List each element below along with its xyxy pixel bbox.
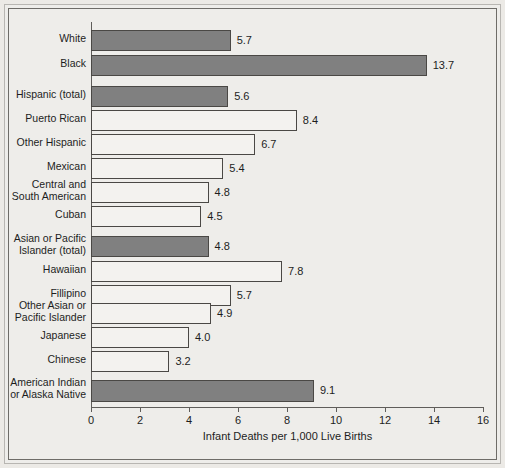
x-axis-tick-label: 16: [477, 414, 489, 426]
category-label: Chinese: [0, 354, 86, 366]
bar: [91, 182, 209, 203]
category-label: Asian or Pacific Islander (total): [0, 233, 86, 256]
category-label: Japanese: [0, 330, 86, 342]
x-axis-tick-label: 10: [330, 414, 342, 426]
x-axis-tick: [483, 407, 484, 412]
category-label: Mexican: [0, 161, 86, 173]
bar-value-label: 7.8: [288, 265, 303, 277]
bar-value-label: 4.8: [215, 240, 230, 252]
bar: [91, 236, 209, 257]
bar: [91, 86, 228, 107]
bar: [91, 380, 314, 402]
bar: [91, 261, 282, 282]
category-label: Puerto Rican: [0, 113, 86, 125]
category-label: Fillipino: [0, 288, 86, 300]
bar-value-label: 13.7: [433, 59, 454, 71]
x-axis-tick: [287, 407, 288, 412]
bar-value-label: 4.5: [207, 210, 222, 222]
x-axis-tick-label: 12: [379, 414, 391, 426]
x-axis-tick-label: 2: [137, 414, 143, 426]
bar-value-label: 5.7: [237, 289, 252, 301]
x-axis-tick-label: 6: [235, 414, 241, 426]
x-axis-tick: [189, 407, 190, 412]
category-label: White: [0, 33, 86, 45]
bar: [91, 303, 211, 324]
x-axis-tick-label: 14: [428, 414, 440, 426]
plot-area: 0246810121416 5.713.75.68.46.75.44.84.54…: [0, 0, 505, 468]
x-axis-tick: [91, 407, 92, 412]
category-label: Black: [0, 58, 86, 70]
bar-value-label: 4.9: [217, 307, 232, 319]
bar: [91, 327, 189, 348]
bar: [91, 206, 201, 227]
bar-value-label: 4.8: [215, 186, 230, 198]
bar-value-label: 8.4: [303, 114, 318, 126]
x-axis-tick: [434, 407, 435, 412]
bar: [91, 110, 297, 131]
category-label: Other Hispanic: [0, 137, 86, 149]
bar-value-label: 5.4: [229, 162, 244, 174]
infant-mortality-bar-chart: 0246810121416 5.713.75.68.46.75.44.84.54…: [0, 0, 505, 468]
category-label: Hawaiian: [0, 264, 86, 276]
x-axis-title: Infant Deaths per 1,000 Live Births: [91, 430, 484, 442]
x-axis-tick: [385, 407, 386, 412]
x-axis-tick: [238, 407, 239, 412]
category-label: American Indian or Alaska Native: [0, 377, 86, 400]
bar: [91, 158, 223, 179]
bar: [91, 351, 169, 372]
bar-value-label: 5.6: [234, 90, 249, 102]
bar: [91, 55, 427, 76]
bar: [91, 30, 231, 51]
x-axis-tick-label: 0: [88, 414, 94, 426]
bar-value-label: 6.7: [261, 138, 276, 150]
bar-value-label: 5.7: [237, 34, 252, 46]
category-label: Other Asian or Pacific Islander: [0, 300, 86, 323]
x-axis-tick-label: 4: [186, 414, 192, 426]
category-label: Cuban: [0, 209, 86, 221]
x-axis-tick: [140, 407, 141, 412]
bar-value-label: 3.2: [175, 355, 190, 367]
category-label: Central and South American: [0, 179, 86, 202]
x-axis-tick: [336, 407, 337, 412]
x-axis-tick-label: 8: [284, 414, 290, 426]
bar-value-label: 9.1: [320, 384, 335, 396]
bar: [91, 134, 255, 155]
category-label: Hispanic (total): [0, 89, 86, 101]
bar-value-label: 4.0: [195, 331, 210, 343]
